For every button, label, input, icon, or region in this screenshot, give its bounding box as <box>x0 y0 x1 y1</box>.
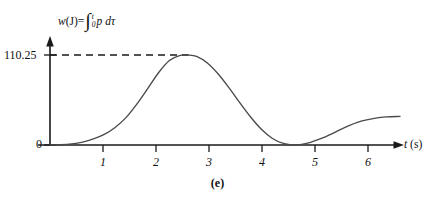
y-tick-label-110: 110.25 <box>4 49 37 61</box>
x-tick-label-3: 3 <box>206 156 212 168</box>
integral-lower-limit: 0 <box>92 21 96 29</box>
differential: dτ <box>105 15 115 27</box>
y-axis-label-unit: (J) <box>66 15 78 27</box>
y-axis-label-variable: w <box>58 15 66 27</box>
y-tick-label-0: 0 <box>36 138 42 150</box>
y-axis-label-equals: = <box>78 15 85 27</box>
x-axis-label-variable: t <box>404 138 407 150</box>
x-tick-label-1: 1 <box>100 156 106 168</box>
energy-curve <box>50 55 400 145</box>
figure-caption: (e) <box>0 177 435 189</box>
y-axis-arrow-icon <box>46 36 54 47</box>
x-tick-label-5: 5 <box>312 156 318 168</box>
integral-limits: t0 <box>92 13 96 29</box>
integrand: p <box>97 15 103 27</box>
y-axis-label: w(J)=∫t0p dτ <box>58 14 115 30</box>
x-axis-label-unit: (s) <box>410 138 422 150</box>
x-tick-label-4: 4 <box>259 156 265 168</box>
x-axis-label: t (s) <box>404 139 422 151</box>
figure-container: w(J)=∫t0p dτ 110.25 0 1 2 3 4 5 6 t (s) … <box>0 0 435 206</box>
x-axis-arrow-icon <box>394 141 405 149</box>
x-tick-label-6: 6 <box>365 156 371 168</box>
x-tick-label-2: 2 <box>153 156 159 168</box>
